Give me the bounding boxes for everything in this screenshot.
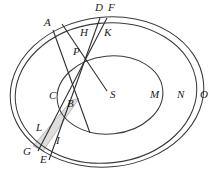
point-label-C: C	[49, 90, 56, 101]
point-label-H: H	[80, 27, 88, 38]
point-label-O: O	[200, 89, 208, 100]
point-label-A: A	[44, 17, 51, 28]
point-label-B: B	[67, 98, 74, 109]
point-label-E: E	[40, 154, 47, 165]
point-label-I: I	[56, 135, 60, 146]
band-line-F-G	[38, 18, 107, 151]
point-label-P: P	[73, 46, 80, 57]
point-label-D: D	[95, 2, 103, 13]
point-label-M: M	[150, 89, 159, 100]
point-label-G: G	[23, 146, 31, 157]
point-label-L: L	[36, 122, 42, 133]
point-label-N: N	[177, 89, 184, 100]
point-label-K: K	[104, 27, 111, 38]
geometry-figure: A D F H K P C B S M N O L I G E	[0, 0, 218, 178]
point-label-F: F	[108, 2, 115, 13]
point-label-S: S	[110, 89, 116, 100]
